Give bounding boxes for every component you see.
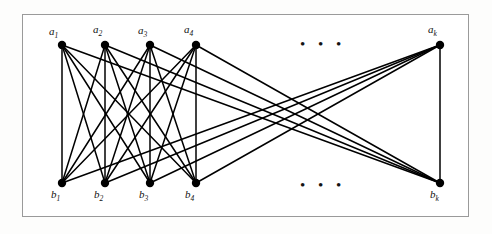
edge-layer (62, 45, 440, 183)
graph-node-b1 (58, 179, 66, 187)
graph-node-a3 (146, 41, 154, 49)
graph-node-b2 (101, 179, 109, 187)
graph-node-b4 (192, 179, 200, 187)
node-label-b3: b3 (139, 188, 148, 203)
node-label-ak: ak (428, 23, 437, 38)
graph-node-ak (436, 41, 444, 49)
node-label-a4: a4 (184, 23, 193, 38)
graph-node-a4 (192, 41, 200, 49)
node-label-a1: a1 (49, 25, 58, 40)
node-label-b1: b1 (51, 188, 60, 203)
node-label-bk: bk (430, 188, 439, 203)
graph-node-b3 (146, 179, 154, 187)
node-label-a2: a2 (93, 23, 102, 38)
graph-node-a2 (101, 41, 109, 49)
graph-node-a1 (58, 41, 66, 49)
node-label-a3: a3 (138, 24, 147, 39)
bipartite-graph (0, 0, 492, 234)
figure-page: a1a2a3a4akb1b2b3b4bk • • • • • • (0, 0, 492, 234)
bottom-row-ellipsis: • • • (300, 178, 346, 193)
node-label-b2: b2 (94, 188, 103, 203)
top-row-ellipsis: • • • (300, 37, 346, 52)
graph-node-bk (436, 179, 444, 187)
node-label-b4: b4 (185, 188, 194, 203)
